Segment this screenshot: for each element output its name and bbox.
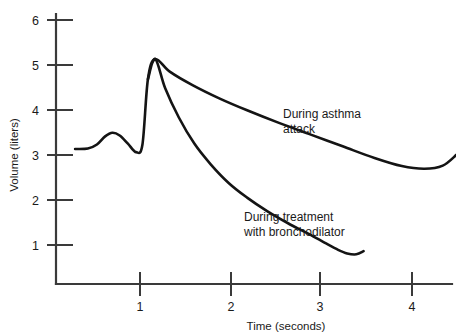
x-axis-tick-labels: 1 2 3 4: [137, 300, 416, 314]
annotation-bronchodilator-line-2: with bronchodilator: [243, 225, 345, 239]
y-axis-ticks: [47, 20, 73, 245]
x-tick-label-1: 1: [137, 300, 144, 314]
y-axis-title: Volume (liters): [8, 118, 20, 192]
y-tick-label-6: 6: [32, 14, 39, 28]
x-axis-title: Time (seconds): [247, 320, 326, 332]
y-tick-label-1: 1: [32, 239, 39, 253]
spirometry-chart: 6 5 4 3 2 1 1 2 3 4 Time (seconds) Volum…: [0, 0, 456, 336]
y-tick-label-4: 4: [32, 104, 39, 118]
chart-svg: 6 5 4 3 2 1 1 2 3 4 Time (seconds) Volum…: [0, 0, 456, 336]
annotation-asthma-line-2: attack: [283, 122, 316, 136]
y-axis-tick-labels: 6 5 4 3 2 1: [32, 14, 39, 253]
x-tick-label-3: 3: [317, 300, 324, 314]
x-tick-label-4: 4: [409, 300, 416, 314]
curve-asthma-attack: [75, 59, 456, 169]
x-tick-label-2: 2: [228, 300, 235, 314]
annotation-bronchodilator-line-1: During treatment: [244, 210, 334, 224]
annotation-asthma-attack: During asthma attack: [283, 107, 361, 136]
y-tick-label-5: 5: [32, 59, 39, 73]
y-tick-label-3: 3: [32, 149, 39, 163]
y-tick-label-2: 2: [32, 194, 39, 208]
annotation-bronchodilator: During treatment with bronchodilator: [243, 210, 345, 239]
annotation-asthma-line-1: During asthma: [283, 107, 361, 121]
